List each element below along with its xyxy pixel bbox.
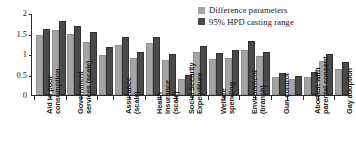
x-tick-mark (97, 96, 113, 100)
legend-swatch-difference-parameters (198, 7, 205, 14)
x-label-cell (81, 114, 97, 167)
y-tick-label: 1 (23, 51, 27, 59)
x-axis-label-line: consumption (54, 69, 62, 114)
chart-legend: Difference parameters 95% HPD casting ra… (198, 6, 294, 26)
x-axis-label-line: Gun control (283, 73, 291, 114)
x-label-cell (50, 114, 66, 167)
plot-wrapper: 00.511.52 Aid to poorconsumptionGovernme… (0, 14, 356, 100)
legend-item-difference-parameters: Difference parameters (198, 6, 294, 15)
x-label-cell: Gun control (271, 114, 287, 167)
y-tick-mark (29, 76, 32, 77)
x-axis-label: Gay adoption (346, 68, 354, 114)
x-label-cell: Aid to poorconsumption (34, 114, 50, 167)
x-label-cell: Healthinsurance(scale) (145, 114, 161, 167)
bar-difference-parameters (209, 59, 216, 95)
y-tick-label: 0.5 (17, 71, 27, 79)
x-label-cell: Abortion withparental consent (303, 114, 319, 167)
y-tick-mark (29, 55, 32, 56)
x-label-cell (318, 114, 334, 167)
y-tick-label: 0 (23, 92, 27, 100)
y-axis-tick-labels: 00.511.52 (0, 14, 30, 96)
x-axis-label: Social SecurityExpenditure (188, 63, 204, 115)
x-label-cell (192, 114, 208, 167)
bar-difference-parameters (67, 34, 74, 95)
x-axis-label-line: (scale) (173, 80, 181, 114)
bar-difference-parameters (241, 50, 248, 96)
bar-difference-parameters (36, 35, 43, 95)
legend-item-hpd-range: 95% HPD casting range (198, 18, 294, 27)
x-axis-label-line: spending (228, 82, 236, 114)
x-label-cell (255, 114, 271, 167)
x-axis-label: Gun control (283, 73, 291, 114)
x-axis-label-line: services (scale) (86, 61, 94, 114)
x-axis-label-line: (branch) (259, 70, 267, 114)
x-label-cell: Governmentservices (scale) (66, 114, 82, 167)
x-label-cell (287, 114, 303, 167)
bar-difference-parameters (272, 77, 279, 95)
bar-difference-parameters (115, 45, 122, 95)
y-tick-mark (29, 35, 32, 36)
x-label-cell: Environment(branch) (239, 114, 255, 167)
x-axis-category-labels: Aid to poorconsumptionGovernmentservices… (31, 114, 352, 167)
y-tick-mark (29, 14, 32, 15)
x-axis-label: Environment(branch) (251, 70, 267, 114)
x-axis-label-line: parental consent (323, 56, 331, 114)
legend-swatch-hpd-range (198, 18, 205, 25)
bar-difference-parameters (146, 43, 153, 95)
x-axis-label: Assurance(scale) (125, 77, 141, 114)
x-label-cell (224, 114, 240, 167)
bar-difference-parameters (304, 77, 311, 95)
bar-hpd-range (295, 76, 302, 95)
x-axis-label-line: (scale) (133, 77, 141, 114)
x-label-cell: Assurance(scale) (113, 114, 129, 167)
x-axis-label: Aid to poorconsumption (46, 69, 62, 114)
bar-hpd-range (106, 47, 113, 95)
legend-label-hpd-range: 95% HPD casting range (209, 18, 294, 27)
x-axis-label: Healthinsurance(scale) (156, 80, 181, 114)
x-axis-label-line: Expenditure (196, 63, 204, 115)
x-label-cell (97, 114, 113, 167)
bar-group (98, 14, 114, 95)
x-label-cell (160, 114, 176, 167)
x-axis-label: Governmentservices (scale) (77, 61, 93, 114)
x-label-cell (129, 114, 145, 167)
x-axis-label-line: Gay adoption (346, 68, 354, 114)
x-label-cell: Gay adoption (334, 114, 350, 167)
bar-chart: Difference parameters 95% HPD casting ra… (0, 0, 356, 167)
bar-difference-parameters (99, 55, 106, 95)
y-tick-label: 2 (23, 10, 27, 18)
x-axis-label: Welfarespending (220, 82, 236, 114)
legend-label-difference-parameters: Difference parameters (209, 6, 288, 15)
x-label-cell: Social SecurityExpenditure (176, 114, 192, 167)
y-tick-label: 1.5 (17, 30, 27, 38)
bar-difference-parameters (335, 69, 342, 95)
x-axis-label: Abortion withparental consent (314, 56, 330, 114)
x-label-cell: Welfarespending (208, 114, 224, 167)
